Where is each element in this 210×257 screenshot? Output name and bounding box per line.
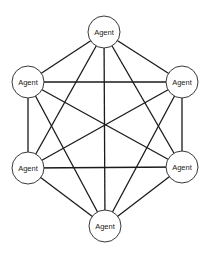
edge-lower-left-lower-right (28, 167, 182, 168)
node-label: Agent (94, 28, 115, 37)
node-label: Agent (172, 78, 193, 87)
agent-node-bottom: Agent (89, 210, 121, 242)
edges-layer (28, 32, 182, 226)
agent-node-upper-left: Agent (12, 66, 44, 98)
node-label: Agent (172, 163, 193, 172)
agent-node-lower-left: Agent (12, 152, 44, 184)
agent-node-lower-right: Agent (166, 151, 198, 183)
edge-top-bottom (104, 32, 105, 226)
edge-top-lower-right (104, 32, 182, 167)
agent-node-upper-right: Agent (166, 66, 198, 98)
node-label: Agent (18, 164, 39, 173)
edge-top-lower-left (28, 32, 104, 168)
agent-node-top: Agent (88, 16, 120, 48)
node-label: Agent (95, 222, 116, 231)
node-label: Agent (18, 78, 39, 87)
agent-network-diagram: AgentAgentAgentAgentAgentAgent (0, 0, 210, 257)
